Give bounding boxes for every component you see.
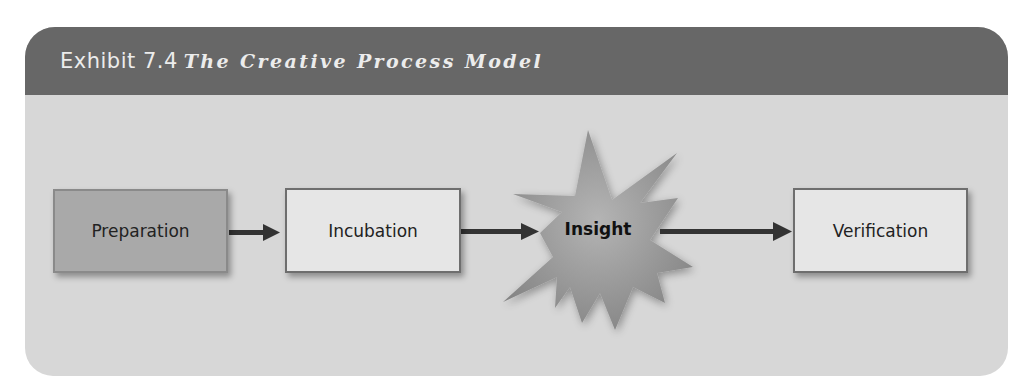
step-incubation: Incubation bbox=[285, 188, 461, 273]
step-insight-label: Insight bbox=[548, 219, 648, 239]
arrow-insight-to-verification bbox=[660, 222, 792, 241]
step-preparation: Preparation bbox=[53, 189, 228, 273]
step-incubation-label: Incubation bbox=[328, 221, 418, 241]
arrow-incubation-to-insight bbox=[461, 223, 539, 240]
step-verification: Verification bbox=[793, 188, 968, 273]
step-verification-label: Verification bbox=[833, 221, 929, 241]
arrow-preparation-to-incubation bbox=[229, 224, 280, 241]
step-preparation-label: Preparation bbox=[91, 221, 189, 241]
